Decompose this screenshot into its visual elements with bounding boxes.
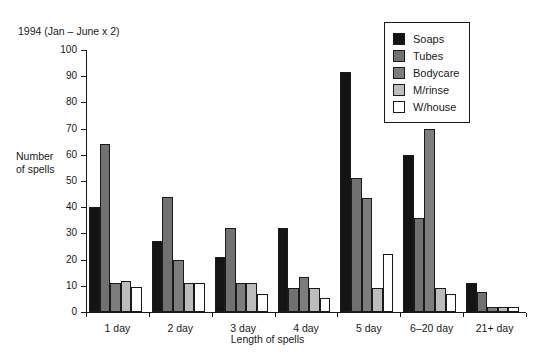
- y-axis-tick-label: 30: [66, 228, 77, 238]
- legend: SoapsTubesBodycareM/rinseW/house: [384, 22, 470, 123]
- bar-group: [89, 50, 142, 312]
- bar: [446, 294, 457, 312]
- y-axis-tick-label: 0: [71, 307, 77, 317]
- legend-item-label: Soaps: [413, 33, 444, 45]
- bar-chart: 1994 (Jan – June x 2) Number of spells 0…: [0, 0, 535, 361]
- y-axis-tick: 80: [81, 102, 86, 103]
- legend-item-label: W/house: [413, 101, 456, 113]
- bar: [278, 228, 289, 312]
- bar: [477, 292, 488, 312]
- y-axis-tick-label: 100: [60, 45, 77, 55]
- x-axis-label: Length of spells: [0, 333, 535, 345]
- bar: [173, 260, 184, 312]
- legend-item[interactable]: W/house: [393, 98, 459, 115]
- y-axis-tick-label: 20: [66, 255, 77, 265]
- bar: [162, 197, 173, 312]
- bar: [194, 283, 205, 312]
- y-axis-tick-label: 50: [66, 176, 77, 186]
- legend-swatch-icon: [393, 67, 405, 79]
- y-axis-tick: 40: [81, 207, 86, 208]
- x-axis-line: [86, 312, 526, 313]
- y-axis-tick-label: 80: [66, 97, 77, 107]
- bar: [320, 298, 331, 312]
- bar: [414, 218, 425, 312]
- bar: [100, 144, 111, 312]
- x-axis-tick: [212, 313, 213, 317]
- bar: [487, 307, 498, 312]
- bar: [424, 129, 435, 312]
- bar: [403, 155, 414, 312]
- legend-item[interactable]: Bodycare: [393, 64, 459, 81]
- y-axis-tick: 20: [81, 260, 86, 261]
- bar: [288, 288, 299, 312]
- bar: [508, 307, 519, 312]
- y-axis-tick: 90: [81, 76, 86, 77]
- bar: [225, 228, 236, 312]
- x-axis-tick: [149, 313, 150, 317]
- bar-group: [152, 50, 205, 312]
- bar: [215, 257, 226, 312]
- bar: [184, 283, 195, 312]
- bar: [131, 287, 142, 312]
- legend-item-label: Tubes: [413, 50, 443, 62]
- legend-item[interactable]: M/rinse: [393, 81, 459, 98]
- x-axis-tick: [337, 313, 338, 317]
- bar: [110, 283, 121, 312]
- bar: [299, 277, 310, 312]
- bar: [435, 288, 446, 312]
- bar-group: [215, 50, 268, 312]
- y-axis-tick: 70: [81, 129, 86, 130]
- legend-swatch-icon: [393, 84, 405, 96]
- y-axis-line: [86, 50, 87, 313]
- bar: [498, 307, 509, 312]
- x-axis-tick: [86, 313, 87, 317]
- bar: [236, 283, 247, 312]
- bar: [257, 294, 268, 312]
- bar: [362, 198, 373, 312]
- bar: [351, 178, 362, 312]
- bar: [466, 283, 477, 312]
- legend-item-label: M/rinse: [413, 84, 449, 96]
- y-axis-tick: 10: [81, 286, 86, 287]
- bar: [152, 241, 163, 312]
- bar-group: [466, 50, 519, 312]
- x-axis-tick: [463, 313, 464, 317]
- y-axis-tick: 50: [81, 181, 86, 182]
- x-axis-tick: [400, 313, 401, 317]
- bar: [121, 281, 132, 312]
- y-axis-tick-label: 10: [66, 281, 77, 291]
- bar: [340, 72, 351, 312]
- legend-swatch-icon: [393, 50, 405, 62]
- bar: [246, 283, 257, 312]
- legend-item[interactable]: Tubes: [393, 47, 459, 64]
- chart-title: 1994 (Jan – June x 2): [18, 25, 120, 37]
- x-axis-tick: [275, 313, 276, 317]
- legend-item[interactable]: Soaps: [393, 30, 459, 47]
- bar: [383, 254, 394, 312]
- bar: [372, 288, 383, 312]
- y-axis-tick-label: 70: [66, 124, 77, 134]
- y-axis-tick-label: 40: [66, 202, 77, 212]
- bar-group: [278, 50, 331, 312]
- bar: [89, 207, 100, 312]
- y-axis-tick: 100: [81, 50, 86, 51]
- legend-swatch-icon: [393, 33, 405, 45]
- y-axis-tick-label: 60: [66, 150, 77, 160]
- x-axis-tick: [526, 313, 527, 317]
- legend-item-label: Bodycare: [413, 67, 459, 79]
- legend-swatch-icon: [393, 101, 405, 113]
- y-axis-tick: 60: [81, 155, 86, 156]
- y-axis-tick-label: 90: [66, 71, 77, 81]
- bar: [309, 288, 320, 312]
- y-axis-tick: 30: [81, 233, 86, 234]
